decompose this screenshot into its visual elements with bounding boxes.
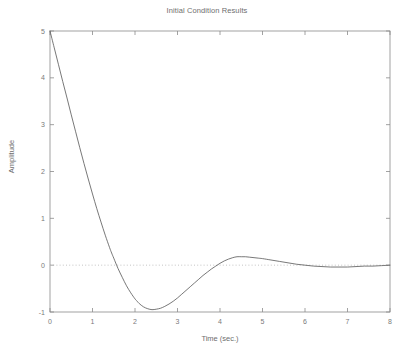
svg-text:1: 1 — [91, 318, 95, 325]
svg-text:7: 7 — [346, 318, 350, 325]
svg-text:2: 2 — [133, 318, 137, 325]
svg-text:3: 3 — [41, 121, 45, 128]
svg-text:2: 2 — [41, 168, 45, 175]
svg-text:8: 8 — [388, 318, 392, 325]
svg-text:5: 5 — [261, 318, 265, 325]
svg-text:5: 5 — [41, 28, 45, 35]
svg-text:-1: -1 — [39, 309, 45, 316]
y-axis-ticks: -1012345 — [39, 28, 390, 316]
svg-text:4: 4 — [218, 318, 222, 325]
svg-text:1: 1 — [41, 215, 45, 222]
caption-fragment — [8, 348, 406, 357]
figure-container: Initial Condition Results Amplitude Time… — [0, 0, 414, 358]
data-series-group — [50, 31, 390, 310]
svg-text:6: 6 — [303, 318, 307, 325]
svg-text:0: 0 — [48, 318, 52, 325]
plot-area: 012345678 -1012345 — [0, 0, 414, 358]
svg-text:3: 3 — [176, 318, 180, 325]
svg-text:4: 4 — [41, 74, 45, 81]
svg-text:0: 0 — [41, 262, 45, 269]
x-axis-ticks: 012345678 — [48, 31, 392, 325]
axes-frame — [50, 31, 390, 312]
